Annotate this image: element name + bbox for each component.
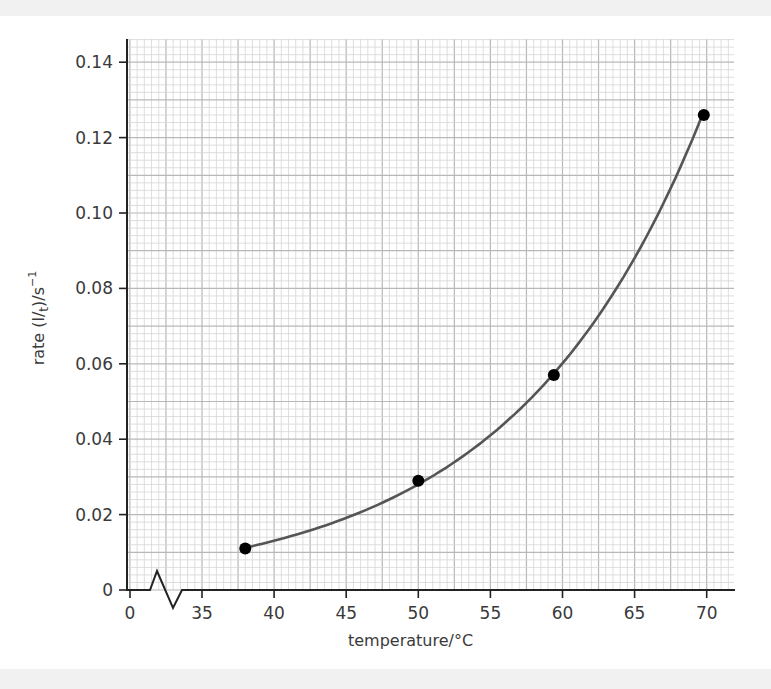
data-point [698, 109, 710, 121]
data-point [412, 475, 424, 487]
axes [127, 39, 735, 608]
svg-text:rate (l/t)/s−1: rate (l/t)/s−1 [26, 271, 51, 366]
y-label-after: )/s [29, 287, 48, 307]
data-point [548, 369, 560, 381]
y-axis-ticks: 00.020.040.060.080.100.120.14 [75, 52, 127, 600]
x-tick-label: 50 [407, 603, 429, 623]
y-tick-label: 0.12 [75, 128, 113, 148]
y-tick-label: 0.06 [75, 354, 113, 374]
x-tick-label: 55 [480, 603, 502, 623]
rate-vs-temperature-chart: 03540455055606570 00.020.040.060.080.100… [0, 0, 771, 689]
y-tick-label: 0.04 [75, 429, 113, 449]
y-label-main: rate ( [29, 321, 48, 365]
x-tick-label: 65 [624, 603, 646, 623]
y-label-sup: −1 [26, 271, 39, 287]
data-point [239, 543, 251, 555]
y-tick-label: 0.08 [75, 278, 113, 298]
x-tick-label: 45 [335, 603, 357, 623]
x-tick-label: 40 [263, 603, 285, 623]
y-tick-label: 0.14 [75, 52, 113, 72]
x-tick-label: 35 [191, 603, 213, 623]
x-tick-label: 0 [125, 603, 136, 623]
y-tick-label: 0 [102, 580, 113, 600]
grid [128, 39, 734, 590]
x-axis-title: temperature/°C [348, 631, 473, 650]
y-tick-label: 0.10 [75, 203, 113, 223]
x-axis-ticks: 03540455055606570 [125, 590, 718, 623]
y-axis-title: rate (l/t)/s−1 [26, 271, 51, 366]
y-tick-label: 0.02 [75, 505, 113, 525]
x-tick-label: 70 [696, 603, 718, 623]
x-tick-label: 60 [552, 603, 574, 623]
